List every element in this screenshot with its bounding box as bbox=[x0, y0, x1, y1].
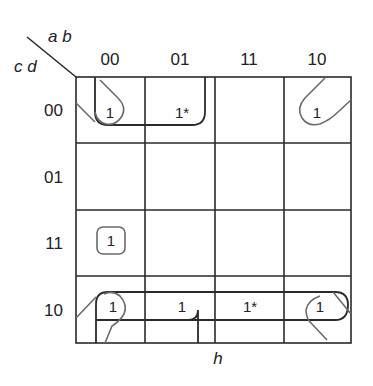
row-header-01: 01 bbox=[44, 168, 63, 187]
cell-r0-c3: 1 bbox=[313, 104, 321, 121]
cell-r0-c0: 1 bbox=[106, 104, 114, 121]
loop-corner-top-left-edge bbox=[76, 103, 95, 122]
karnaugh-map: a b c d 00 01 11 10 00 01 11 10 1 1* 1 bbox=[0, 0, 373, 386]
col-header-11: 11 bbox=[240, 50, 258, 69]
loop-row10-all bbox=[96, 292, 348, 343]
col-vars-label: a b bbox=[48, 27, 72, 46]
row-header-00: 00 bbox=[44, 101, 63, 120]
col-header-00: 00 bbox=[101, 50, 120, 69]
col-header-10: 10 bbox=[308, 50, 327, 69]
row-header-10: 10 bbox=[44, 301, 63, 320]
row-header-11: 11 bbox=[45, 234, 63, 253]
loop-corner-bottom-left-edge bbox=[76, 297, 96, 318]
cell-r3-c0: 1 bbox=[109, 298, 117, 315]
cell-r2-c0: 1 bbox=[107, 232, 115, 249]
cell-r0-c1: 1* bbox=[175, 104, 189, 121]
row-vars-label: c d bbox=[14, 57, 37, 76]
cell-r3-c3: 1 bbox=[316, 298, 324, 315]
col-header-01: 01 bbox=[171, 50, 190, 69]
loop-corner-top-right bbox=[300, 78, 351, 125]
cell-r3-c1: 1 bbox=[178, 298, 186, 315]
map-caption: h bbox=[213, 349, 222, 368]
cell-r3-c2: 1* bbox=[243, 298, 257, 315]
